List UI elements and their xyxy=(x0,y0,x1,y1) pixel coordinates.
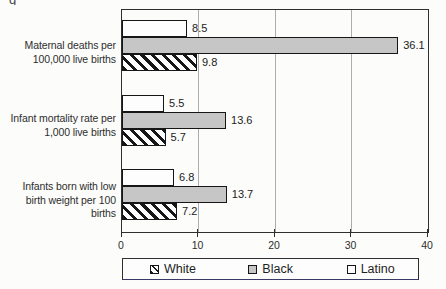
legend-label: Black xyxy=(262,262,293,276)
bar-white-group2 xyxy=(122,129,166,146)
category-label-line: Infants born with low xyxy=(0,180,116,194)
category-labels: Maternal deaths per100,000 live birthsIn… xyxy=(0,0,121,232)
bar-value-label: 13.6 xyxy=(231,112,252,129)
bar-black-group2 xyxy=(122,112,226,129)
bar-white-group1 xyxy=(122,54,197,71)
x-tick-label: 10 xyxy=(185,239,211,251)
category-label-3: Infants born with lowbirth weight per 10… xyxy=(0,180,121,221)
bar-latino-group3 xyxy=(122,169,174,186)
chart-image: g Maternal deaths per100,000 live births… xyxy=(0,0,446,289)
x-tick-mark xyxy=(427,229,428,237)
category-label-line: birth weight per 100 xyxy=(0,194,116,208)
bar-value-label: 13.7 xyxy=(232,186,253,203)
x-tick-mark xyxy=(121,229,122,237)
bar-latino-group2 xyxy=(122,95,164,112)
bar-value-label: 9.8 xyxy=(202,54,217,71)
x-tick-mark xyxy=(350,229,351,237)
legend-item-white: White xyxy=(123,259,221,279)
x-tick-label: 30 xyxy=(338,239,364,251)
x-tick-label: 0 xyxy=(108,239,134,251)
category-label-line: births xyxy=(0,207,116,221)
x-tick-label: 40 xyxy=(414,239,440,251)
bar-white-group3 xyxy=(122,203,177,220)
legend-label: White xyxy=(164,262,196,276)
plot-area: 8.55.56.836.113.613.79.85.77.2 xyxy=(121,9,429,233)
legend-swatch-black xyxy=(248,265,257,274)
bar-value-label: 5.7 xyxy=(171,129,186,146)
legend-item-black: Black xyxy=(221,259,319,279)
x-axis: 010203040 xyxy=(121,233,427,255)
x-tick-mark xyxy=(197,229,198,237)
legend-swatch-latino xyxy=(347,265,356,274)
category-label-line: 100,000 live births xyxy=(0,53,116,67)
legend: WhiteBlackLatino xyxy=(122,258,419,280)
legend-label: Latino xyxy=(361,262,395,276)
legend-swatch-white xyxy=(150,265,159,274)
category-label-line: Maternal deaths per xyxy=(0,39,116,53)
bar-value-label: 7.2 xyxy=(182,203,197,220)
category-label-line: Infant mortality rate per xyxy=(0,112,116,126)
category-label-line: 1,000 live births xyxy=(0,126,116,140)
category-label-1: Maternal deaths per100,000 live births xyxy=(0,39,121,66)
bar-value-label: 6.8 xyxy=(179,169,194,186)
bar-black-group1 xyxy=(122,37,398,54)
x-tick-mark xyxy=(274,229,275,237)
bar-value-label: 36.1 xyxy=(403,37,424,54)
bar-black-group3 xyxy=(122,186,227,203)
bar-value-label: 8.5 xyxy=(192,20,207,37)
category-label-2: Infant mortality rate per1,000 live birt… xyxy=(0,112,121,139)
bar-latino-group1 xyxy=(122,20,187,37)
legend-item-latino: Latino xyxy=(320,259,418,279)
bar-value-label: 5.5 xyxy=(169,95,184,112)
x-tick-label: 20 xyxy=(261,239,287,251)
